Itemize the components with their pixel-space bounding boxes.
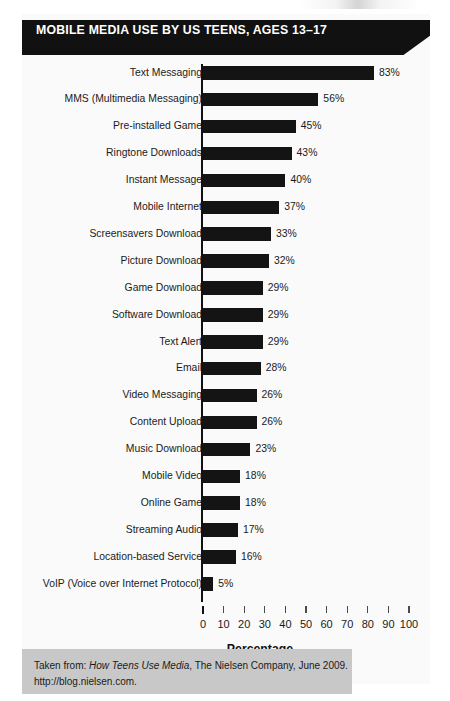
bar-value-label: 43% [297, 148, 318, 158]
bar-value-label: 40% [290, 175, 311, 185]
bar-value-label: 33% [276, 229, 297, 239]
x-axis-tick [367, 606, 368, 613]
bar [203, 174, 285, 188]
x-axis-tick-label: 100 [400, 618, 418, 630]
bar [203, 443, 250, 457]
bar [203, 335, 263, 349]
x-axis-tick [244, 606, 245, 613]
bar-value-label: 83% [379, 68, 400, 78]
category-label: Instant Message [0, 175, 202, 185]
bar-value-label: 5% [218, 579, 233, 589]
bar [203, 577, 213, 591]
category-label: Streaming Audio [0, 525, 202, 535]
x-axis-tick-label: 40 [279, 618, 291, 630]
category-label: Picture Download [0, 256, 202, 266]
bar-value-label: 45% [301, 121, 322, 131]
bar [203, 550, 236, 564]
x-axis-tick [264, 606, 265, 613]
category-label: Ringtone Downloads [0, 148, 202, 158]
bar-value-label: 29% [268, 337, 289, 347]
bar-value-label: 32% [274, 256, 295, 266]
x-axis-tick [347, 606, 348, 613]
bar [203, 120, 296, 134]
category-label: Email [0, 363, 202, 373]
category-label: Text Alert [0, 337, 202, 347]
bar-value-label: 26% [262, 417, 283, 427]
bar [203, 496, 240, 510]
bar-value-label: 17% [243, 525, 264, 535]
category-label: Music Download [0, 444, 202, 454]
x-axis-tick-label: 10 [217, 618, 229, 630]
bar [203, 147, 292, 161]
category-label: Game Download [0, 283, 202, 293]
source-line-1: Taken from: How Teens Use Media, The Nie… [34, 658, 348, 674]
bar [203, 362, 261, 376]
source-suffix: , The Nielsen Company, June 2009. [189, 660, 348, 671]
x-axis-tick-label: 50 [300, 618, 312, 630]
bar [203, 416, 257, 430]
bar [203, 93, 318, 107]
source-footer-text: Taken from: How Teens Use Media, The Nie… [34, 658, 348, 689]
source-title: How Teens Use Media [89, 660, 189, 671]
x-axis-tick [326, 606, 327, 613]
category-label: Location-based Service [0, 552, 202, 562]
category-label: Text Messaging [0, 68, 202, 78]
plot-area: Text MessagingMMS (Multimedia Messaging)… [22, 62, 430, 618]
x-axis-tick-label: 0 [200, 618, 206, 630]
category-label: MMS (Multimedia Messaging) [0, 94, 202, 104]
x-axis-tick [202, 606, 204, 614]
bar-value-label: 29% [268, 310, 289, 320]
page-title: MOBILE MEDIA USE BY US TEENS, AGES 13–17 [36, 23, 327, 37]
x-axis-tick-label: 80 [362, 618, 374, 630]
category-label: Mobile Internet [0, 202, 202, 212]
category-label: Software Download [0, 310, 202, 320]
bar [203, 523, 238, 537]
x-axis-tick [285, 606, 286, 613]
x-axis-tick [388, 606, 389, 613]
category-label: Online Game [0, 498, 202, 508]
x-axis-tick [223, 606, 224, 613]
x-axis-tick-label: 70 [341, 618, 353, 630]
source-footer: Taken from: How Teens Use Media, The Nie… [22, 649, 352, 694]
x-axis-tick-label: 30 [259, 618, 271, 630]
category-label: Pre-installed Game [0, 121, 202, 131]
x-axis-ticks [22, 606, 430, 615]
bar-value-label: 16% [241, 552, 262, 562]
x-axis-tick [408, 606, 409, 613]
bar-value-label: 29% [268, 283, 289, 293]
bar-value-label: 23% [255, 444, 276, 454]
bar [203, 66, 374, 80]
bar [203, 201, 279, 215]
x-axis-tick-labels: 0102030405060708090100 [22, 618, 430, 632]
category-label: Video Messaging [0, 390, 202, 400]
source-line-2: http://blog.nielsen.com. [34, 674, 348, 690]
chart-figure: MOBILE MEDIA USE BY US TEENS, AGES 13–17… [22, 14, 430, 684]
bar-value-label: 26% [262, 390, 283, 400]
bar-value-label: 18% [245, 498, 266, 508]
x-axis-tick [305, 606, 306, 613]
bar-value-label: 37% [284, 202, 305, 212]
bar [203, 308, 263, 322]
x-axis-tick-label: 90 [382, 618, 394, 630]
category-label: VoIP (Voice over Internet Protocol) [0, 579, 202, 589]
category-label: Content Upload [0, 417, 202, 427]
bar [203, 227, 271, 241]
source-prefix: Taken from: [34, 660, 89, 671]
bar [203, 470, 240, 484]
bar [203, 254, 269, 268]
bar-value-label: 28% [266, 363, 287, 373]
x-axis-tick-label: 20 [238, 618, 250, 630]
category-label: Screensavers Download [0, 229, 202, 239]
y-axis-line [201, 64, 203, 602]
x-axis-tick-label: 60 [320, 618, 332, 630]
bar-value-label: 56% [323, 94, 344, 104]
bar [203, 389, 257, 403]
bar [203, 281, 263, 295]
category-label: Mobile Video [0, 471, 202, 481]
bar-value-label: 18% [245, 471, 266, 481]
page-scan-artifact [300, 0, 420, 9]
